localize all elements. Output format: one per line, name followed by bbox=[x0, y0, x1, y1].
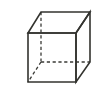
cube-face-front bbox=[28, 33, 76, 82]
cube-diagram bbox=[0, 0, 103, 92]
figure-canvas: A. bbox=[0, 0, 103, 92]
